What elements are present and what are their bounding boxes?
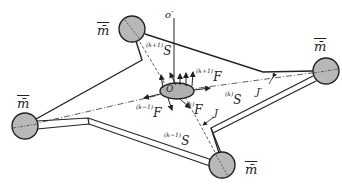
label-s-k-plus-1: (k+1)S	[146, 42, 171, 58]
axis-label: o′	[165, 10, 173, 20]
center-label: O	[166, 85, 173, 94]
j-pointer	[203, 117, 214, 125]
label-s-k: (k)S	[225, 91, 242, 107]
label-s-k-minus-1: (k−1)S	[164, 132, 189, 148]
label-f-k-minus-1: (k−1)F	[136, 104, 162, 120]
j-prime-pointer	[269, 77, 273, 84]
mass-label-left: m̄	[17, 97, 29, 110]
label-j-prime: J′	[256, 87, 262, 97]
diagram-svg	[0, 0, 342, 189]
mass-top	[119, 16, 145, 42]
beam-top-left	[36, 41, 142, 119]
label-f-k-plus-1: (k+1)F	[196, 68, 222, 84]
mass-label-top: m̄	[97, 24, 109, 37]
mass-bottom	[209, 152, 235, 178]
beam-right-bottom	[211, 76, 316, 153]
mass-left	[12, 113, 38, 139]
mass-label-bottom: m̄	[245, 163, 257, 176]
mass-right	[313, 58, 339, 84]
label-j: J	[214, 108, 218, 118]
label-f-k: (k)F	[186, 101, 203, 117]
mass-label-right: m̄	[314, 40, 326, 53]
diagram-canvas: m̄ m̄ m̄ m̄ o′ O (k+1)S (k+1)F (k−1)F (k…	[0, 0, 342, 189]
